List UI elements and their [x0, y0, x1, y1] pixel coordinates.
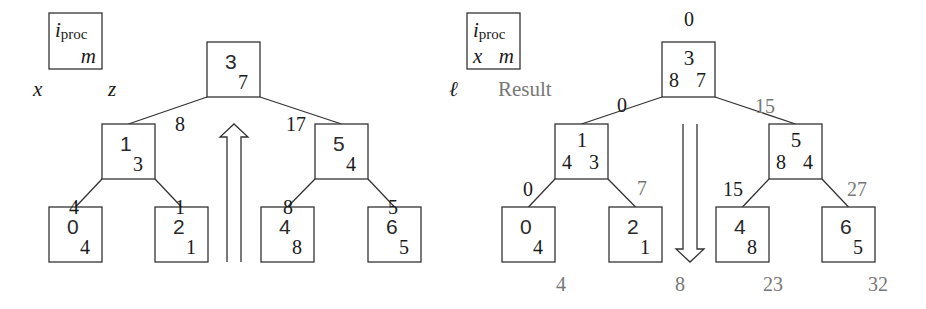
node-m-value: 7 [696, 69, 706, 91]
node-m-value: 5 [399, 236, 409, 258]
result-label: 23 [763, 273, 783, 295]
node-m-value: 3 [589, 151, 599, 173]
up-arrow-icon [220, 124, 248, 262]
legend-m-label: m [81, 44, 96, 68]
edge-label: 0 [684, 8, 694, 30]
legend-ell-label: ℓ [449, 77, 458, 101]
node-m-value: 3 [133, 153, 143, 175]
edge-label: 0 [523, 178, 533, 200]
node-id-label: 1 [120, 132, 132, 155]
result-label: 4 [556, 273, 566, 295]
node-id-label: 0 [67, 215, 79, 238]
node-m-value: 1 [640, 236, 650, 258]
edge-label: 8 [283, 196, 293, 218]
node-id-label: 6 [386, 215, 398, 238]
result-label: 8 [675, 273, 685, 295]
node-m-value: 5 [853, 236, 863, 258]
tree-node-1: 13 [102, 124, 155, 179]
tree-edge [76, 179, 103, 207]
tree-edge [608, 179, 636, 207]
tree-node-5: 54 [315, 124, 368, 179]
node-id-label: 5 [791, 128, 802, 152]
legend-m-label: m [499, 44, 514, 68]
edge-label: 17 [286, 113, 306, 135]
legend-x-label: x [472, 44, 483, 68]
right-legend: iprocmxℓResult [449, 13, 552, 101]
node-id-label: 2 [627, 215, 639, 238]
node-m-value: 4 [803, 151, 813, 173]
left-legend: iprocmxz [32, 13, 116, 101]
edge-label: 4 [69, 196, 79, 218]
node-id-label: 3 [684, 46, 695, 70]
legend-z-label: z [107, 77, 116, 101]
edge-label: 1 [175, 196, 185, 218]
tree-edge [822, 179, 849, 207]
node-id-label: 4 [279, 215, 291, 238]
node-id-label: 4 [734, 215, 746, 238]
tree-node-0: 04 [502, 207, 555, 262]
legend-result-label: Result [498, 77, 552, 101]
node-x-value: 8 [669, 69, 679, 91]
node-id-label: 0 [520, 215, 532, 238]
tree-node-3: 37 [207, 42, 260, 97]
edge-label: 8 [175, 113, 185, 135]
tree-node-5: 584 [769, 124, 822, 179]
edge-label: 15 [755, 95, 775, 117]
edge-label: 15 [723, 178, 743, 200]
node-x-value: 8 [776, 151, 786, 173]
tree-node-4: 48 [716, 207, 769, 262]
down-arrow-icon [676, 124, 704, 262]
node-m-value: 1 [186, 236, 196, 258]
edge-label: 0 [617, 94, 627, 116]
tree-node-2: 21 [609, 207, 662, 262]
tree-node-1: 143 [555, 124, 608, 179]
node-m-value: 4 [346, 153, 356, 175]
node-m-value: 4 [533, 236, 543, 258]
node-id-label: 5 [333, 132, 345, 155]
tree-node-3: 387 [662, 42, 715, 97]
left-tree-upsweep: iprocmxz371354042148658174185 [32, 13, 421, 262]
tree-node-6: 65 [822, 207, 875, 262]
node-id-label: 3 [225, 50, 237, 73]
tree-edge [129, 97, 208, 124]
tree-edge [743, 179, 770, 207]
edge-label: 7 [637, 177, 647, 199]
node-id-label: 6 [840, 215, 852, 238]
node-m-value: 8 [292, 236, 302, 258]
node-x-value: 4 [562, 151, 572, 173]
node-m-value: 7 [238, 71, 248, 93]
edge-label: 5 [388, 196, 398, 218]
right-result-labels: 482332 [556, 273, 888, 295]
node-id-label: 2 [173, 215, 185, 238]
edge-label: 27 [847, 178, 867, 200]
legend-x-label: x [32, 77, 43, 101]
right-tree-downsweep: iprocmxℓResult38714358404214865001507152… [449, 8, 888, 295]
node-m-value: 8 [747, 236, 757, 258]
result-label: 32 [868, 273, 888, 295]
parallel-prefix-sum-diagram: iprocmxz371354042148658174185 iprocmxℓRe… [0, 0, 926, 309]
node-id-label: 1 [577, 128, 588, 152]
node-m-value: 4 [80, 236, 90, 258]
